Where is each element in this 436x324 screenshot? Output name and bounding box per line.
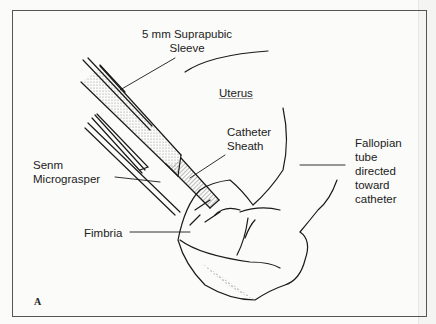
label-uterus: Uterus bbox=[219, 86, 253, 100]
panel-letter: A bbox=[34, 296, 41, 307]
label-fimbria: Fimbria bbox=[84, 226, 122, 240]
leader-micrograsper bbox=[115, 177, 160, 182]
label-suprapubic-sleeve: 5 mm Suprapubic Sleeve bbox=[142, 27, 232, 55]
label-catheter-sheath: Catheter Sheath bbox=[227, 125, 271, 153]
label-fallopian-tube: Fallopian tube directed toward catheter bbox=[355, 136, 402, 206]
label-micrograsper: Senm Micrograsper bbox=[33, 158, 100, 186]
leader-sleeve bbox=[120, 58, 175, 90]
leader-catheter bbox=[190, 155, 225, 178]
